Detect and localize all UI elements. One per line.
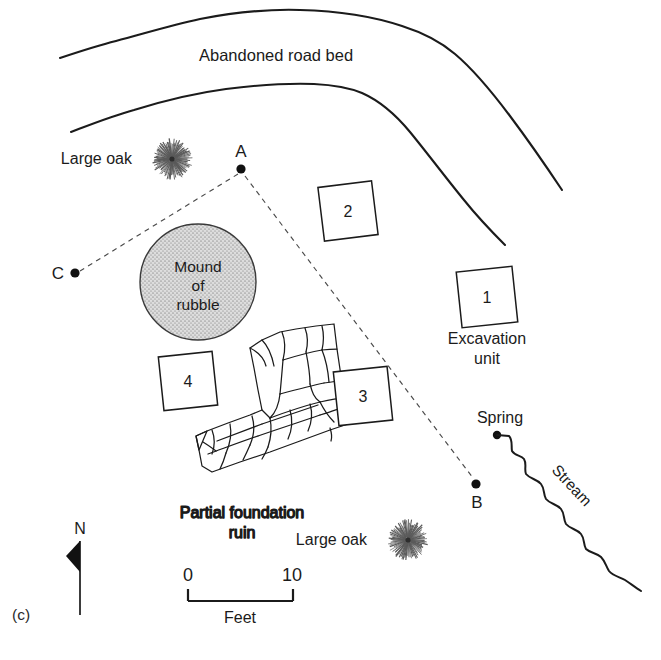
stone-joint-n4 [305,328,307,352]
datum-point-c-label: C [52,264,64,283]
excavation-unit-3[interactable]: 3 [333,366,392,425]
scale-bar: 0 10 Feet [183,565,302,626]
stone-joint-n9 [306,352,310,384]
foundation-label-line1: Partial foundation [180,504,305,521]
datum-point-a-dot [236,164,245,173]
excavation-unit-label-line2: unit [474,350,500,367]
datum-point-a-label: A [235,142,247,161]
foundation-west-tail [196,431,207,450]
excavation-unit-2[interactable]: 2 [318,181,378,241]
large-oak-north-trunk [169,156,174,161]
stone-joint-n2 [283,350,322,360]
datum-point-b: B [471,479,482,512]
mound-label-line1: Mound [174,258,221,275]
stone-joint-n16 [320,402,334,422]
stone-joint-w8 [250,416,254,445]
excavation-unit-4-number: 4 [184,373,193,390]
mound-label-line2: of [192,277,206,294]
datum-points: A B C [52,142,483,512]
datum-point-b-label: B [471,493,482,512]
spring-and-stream: Spring Stream [477,409,641,591]
abandoned-road-bed: Abandoned road bed [60,10,562,245]
road-bed-label: Abandoned road bed [199,46,353,64]
datum-point-b-dot [471,479,480,488]
stone-joint-n10 [322,350,329,382]
north-arrow-label: N [74,520,86,537]
stone-joint-w9 [243,445,250,460]
datum-point-c-dot [70,268,79,277]
excavation-unit-4[interactable]: 4 [158,351,217,410]
stone-joint-w6 [226,424,231,453]
large-oak-south-label: Large oak [296,531,368,548]
stream-label: Stream [549,461,596,509]
triangulation-sightlines [80,174,473,478]
excavation-unit-3-number: 3 [359,388,368,405]
excavation-unit-2-number: 2 [344,203,353,220]
stone-joint-n5 [322,326,324,350]
road-bed-lower-edge [71,84,505,245]
excavation-unit-1-number: 1 [483,289,492,306]
datum-point-a: A [235,142,247,174]
large-oak-south: Large oak [296,519,428,560]
excavation-unit-label-line1: Excavation [448,330,526,347]
spring-label: Spring [477,409,523,426]
stone-joint-n14 [310,384,320,402]
large-oak-north-label: Large oak [61,150,133,167]
mound-of-rubble: Mound of rubble [140,224,256,340]
stone-joint-w1 [217,424,262,441]
datum-point-c: C [52,264,80,283]
stone-joint-n15 [262,410,270,418]
north-arrow-head [66,541,80,572]
north-arrow: N [66,520,86,615]
scale-bar-end-label: 10 [282,565,302,585]
scale-bar-unit-label: Feet [224,609,257,626]
figure-panel-label: (c) [12,606,30,623]
large-oak-south-trunk [405,537,410,542]
stream-course [497,435,641,591]
stone-joint-w10 [212,430,214,454]
excavation-unit-1[interactable]: 1 [456,266,518,328]
stone-joint-n3 [322,349,337,350]
stone-joint-n6 [280,360,283,394]
site-map-figure: Abandoned road bed Mound of rubble [0,0,661,660]
stone-joint-n7 [280,383,324,394]
stone-joint-w4 [258,415,320,436]
stone-joint-n17 [262,340,274,366]
stone-joint-n1 [282,332,285,360]
mound-label-line3: rubble [176,296,219,313]
large-oak-north: Large oak [61,138,193,179]
road-bed-upper-edge [60,10,562,190]
foundation-label-line2: ruin [229,524,256,541]
site-map-canvas: Abandoned road bed Mound of rubble [0,0,661,660]
scale-bar-start-label: 0 [183,565,193,585]
stone-joint-w7 [220,453,226,469]
scale-bar-rule [188,589,293,601]
